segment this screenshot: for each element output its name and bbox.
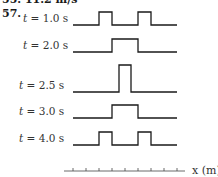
- x-axis-label: x (m): [192, 164, 218, 177]
- wave-t25: [73, 65, 177, 92]
- wave-t4: [73, 132, 177, 145]
- wave-t1: [73, 12, 177, 25]
- wave-t2: [73, 39, 177, 52]
- wave-t3: [73, 105, 177, 118]
- x-axis: [64, 168, 185, 171]
- pulse-diagram: [0, 0, 218, 177]
